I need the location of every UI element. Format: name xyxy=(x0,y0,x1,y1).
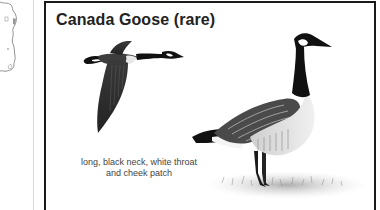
species-card: Canada Goose (rare) long, black neck, wh… xyxy=(44,1,376,210)
standing-goose-illustration xyxy=(192,33,372,205)
sidebar-divider xyxy=(33,0,34,210)
map-outline-icon xyxy=(0,0,22,78)
species-title: Canada Goose (rare) xyxy=(56,11,215,29)
flying-goose-illustration xyxy=(82,41,186,135)
species-caption: long, black neck, white throat and cheek… xyxy=(74,157,204,179)
